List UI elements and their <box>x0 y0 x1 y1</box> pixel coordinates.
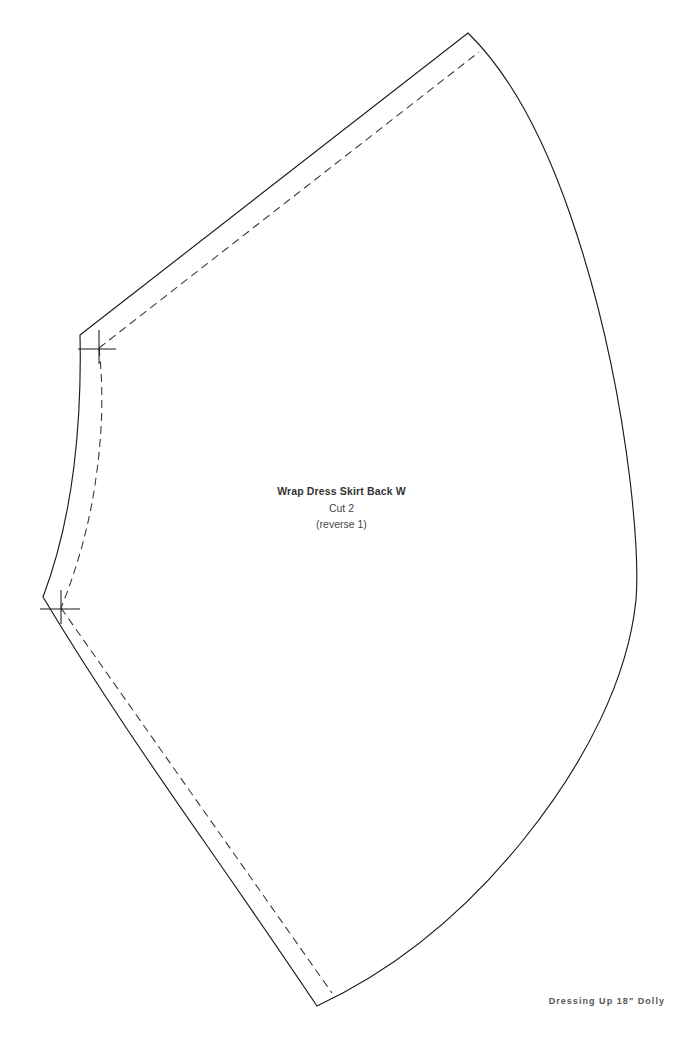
piece-body-fill <box>43 33 637 1006</box>
brand-footer-label: Dressing Up 18" Dolly <box>549 996 665 1006</box>
pattern-sheet: Wrap Dress Skirt Back W Cut 2 (reverse 1… <box>0 0 683 1039</box>
pattern-piece-drawing <box>0 0 683 1039</box>
